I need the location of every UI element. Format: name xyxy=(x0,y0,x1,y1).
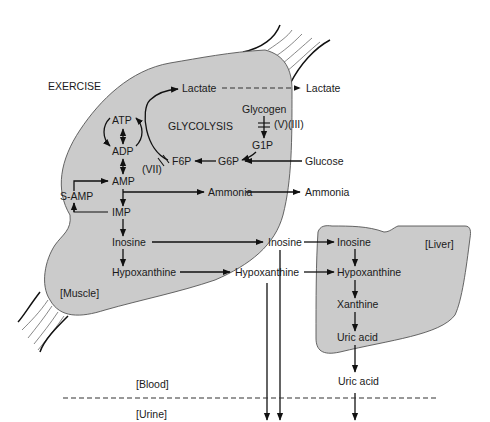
enzyme-vii: (VII) xyxy=(142,163,162,175)
blood-label: [Blood] xyxy=(136,378,169,390)
liver-uric-acid: Uric acid xyxy=(337,331,378,343)
metabolic-pathway-diagram: EXERCISE [Muscle] [Liver] [Blood] [Urine… xyxy=(0,0,490,422)
imp: IMP xyxy=(112,206,131,218)
blood-glucose: Glucose xyxy=(305,155,344,167)
atp: ATP xyxy=(112,114,132,126)
adp: ADP xyxy=(112,145,134,157)
muscle-hypoxanthine: Hypoxanthine xyxy=(112,266,176,278)
amp: AMP xyxy=(112,175,135,187)
urine-label: [Urine] xyxy=(136,408,167,420)
liver-label: [Liver] xyxy=(425,238,454,250)
blood-ammonia: Ammonia xyxy=(305,186,350,198)
muscle-lactate: Lactate xyxy=(182,82,217,94)
enzyme-v-iii: (V)(III) xyxy=(274,118,304,130)
liver-hypoxanthine: Hypoxanthine xyxy=(337,266,401,278)
g1p: G1P xyxy=(252,139,273,151)
liver-xanthine: Xanthine xyxy=(337,298,379,310)
blood-inosine: Inosine xyxy=(268,236,302,248)
blood-lactate: Lactate xyxy=(306,82,341,94)
muscle-label: [Muscle] xyxy=(60,287,99,299)
blood-hypoxanthine: Hypoxanthine xyxy=(235,266,299,278)
liver-inosine: Inosine xyxy=(337,236,371,248)
muscle-ammonia: Ammonia xyxy=(208,186,253,198)
blood-uric-acid: Uric acid xyxy=(338,375,379,387)
f6p: F6P xyxy=(172,155,191,167)
muscle-inosine: Inosine xyxy=(112,236,146,248)
exercise-label: EXERCISE xyxy=(48,80,101,92)
glycolysis-label: GLYCOLYSIS xyxy=(168,120,233,132)
g6p: G6P xyxy=(218,155,239,167)
s-amp: S-AMP xyxy=(60,190,93,202)
glycogen: Glycogen xyxy=(242,103,287,115)
